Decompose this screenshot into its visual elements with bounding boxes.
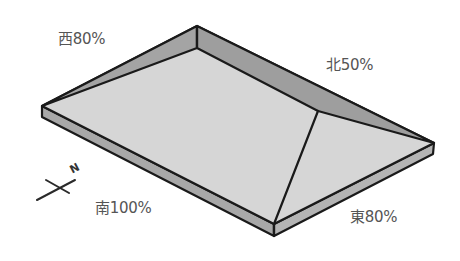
label-east: 東80%: [350, 205, 397, 226]
label-south: 南100%: [95, 196, 151, 217]
compass-icon: [37, 180, 75, 200]
label-north: 北50%: [326, 53, 373, 74]
label-west: 西80%: [58, 27, 105, 48]
